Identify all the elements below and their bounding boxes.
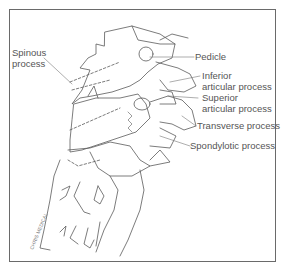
label-line: Pedicle <box>195 51 226 62</box>
label-line: Spinous <box>12 47 46 58</box>
leader-lines <box>44 57 200 146</box>
leader-spinous <box>44 58 72 84</box>
upper-vertebra <box>72 26 196 104</box>
pedicle-oval <box>139 47 153 61</box>
label-line: process <box>12 58 46 69</box>
label-spinous-process: Spinous process <box>12 47 46 69</box>
artist-signature: CHRIS MEDICAL <box>28 212 48 251</box>
dashed-spinous-outline <box>68 62 120 166</box>
label-line: Transverse process <box>197 120 280 131</box>
label-line: articular process <box>202 81 272 92</box>
label-line: Superior <box>202 92 272 103</box>
label-transverse-process: Transverse process <box>197 120 280 131</box>
label-superior-articular-process: Superior articular process <box>202 92 272 114</box>
leader-inferior <box>170 76 200 82</box>
lower-vertebra <box>40 142 170 256</box>
label-line: Inferior <box>202 70 272 81</box>
middle-vertebra <box>70 90 196 152</box>
pedicle-oval-lower <box>134 98 150 110</box>
label-line: articular process <box>202 103 272 114</box>
vertebrae-illustration: CHRIS MEDICAL <box>0 0 287 273</box>
label-pedicle: Pedicle <box>195 51 226 62</box>
label-line: Spondylotic process <box>190 140 275 151</box>
label-inferior-articular-process: Inferior articular process <box>202 70 272 92</box>
label-spondylotic-process: Spondylotic process <box>190 140 275 151</box>
